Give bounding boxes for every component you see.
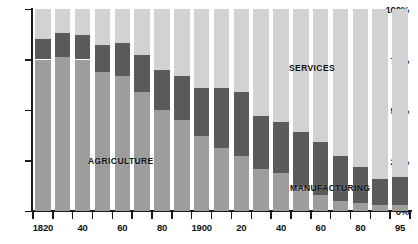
bar-segment-manufacturing — [154, 70, 169, 110]
bar-segment-services — [194, 9, 209, 88]
x-axis-tick — [191, 212, 193, 219]
x-axis-tick — [151, 212, 153, 219]
bar-segment-services — [372, 9, 387, 179]
bar-1970 — [333, 9, 348, 211]
annotation-agriculture: AGRICULTURE — [88, 156, 154, 166]
bar-1995 — [392, 9, 407, 211]
bar-1820 — [35, 9, 50, 211]
bar-1990 — [372, 9, 387, 211]
x-axis-tick — [112, 212, 114, 219]
x-axis-tick — [330, 212, 332, 219]
bar-1870 — [134, 9, 149, 211]
bar-1860 — [115, 9, 130, 211]
bar-segment-agriculture — [134, 92, 149, 211]
y-axis-tick — [25, 160, 32, 162]
bar-1980 — [353, 9, 368, 211]
bar-segment-manufacturing — [134, 55, 149, 91]
bar-segment-agriculture — [392, 205, 407, 211]
stacked-bar-chart: 0%25%50%75%100% 182040608019002040608095… — [0, 0, 418, 244]
bar-segment-manufacturing — [372, 179, 387, 205]
bar-segment-manufacturing — [214, 88, 229, 149]
bar-1900 — [194, 9, 209, 211]
x-axis-tick — [350, 212, 352, 219]
x-axis-label: 60 — [117, 222, 127, 233]
bar-segment-manufacturing — [115, 43, 130, 75]
y-axis-tick — [25, 110, 32, 112]
bar-segment-manufacturing — [174, 76, 189, 120]
bar-1850 — [95, 9, 110, 211]
bar-segment-manufacturing — [95, 45, 110, 71]
bar-segment-manufacturing — [293, 132, 308, 187]
bar-segment-services — [154, 9, 169, 70]
bar-1920 — [234, 9, 249, 211]
bar-1890 — [174, 9, 189, 211]
bar-segment-agriculture — [313, 195, 328, 211]
x-axis-label: 40 — [78, 222, 88, 233]
x-axis-tick — [211, 212, 213, 219]
bar-1950 — [293, 9, 308, 211]
bar-segment-services — [75, 9, 90, 35]
bar-segment-agriculture — [214, 148, 229, 211]
bar-1940 — [273, 9, 288, 211]
plot-area — [33, 9, 410, 211]
bar-segment-services — [333, 9, 348, 156]
x-axis-tick — [171, 212, 173, 219]
bar-1960 — [313, 9, 328, 211]
x-axis-label: 80 — [355, 222, 365, 233]
bar-segment-services — [253, 9, 268, 116]
bar-segment-services — [35, 9, 50, 39]
bar-segment-services — [174, 9, 189, 76]
bar-1830 — [55, 9, 70, 211]
annotation-services: SERVICES — [289, 63, 335, 73]
bar-segment-manufacturing — [253, 116, 268, 169]
bar-segment-manufacturing — [194, 88, 209, 136]
bar-segment-agriculture — [115, 76, 130, 211]
bar-segment-manufacturing — [333, 156, 348, 200]
bar-segment-agriculture — [35, 60, 50, 212]
bar-segment-services — [115, 9, 130, 43]
bar-segment-agriculture — [174, 120, 189, 211]
bar-segment-manufacturing — [75, 35, 90, 59]
bar-segment-agriculture — [372, 205, 387, 211]
x-axis-label: 1900 — [191, 222, 211, 233]
x-axis-label: 95 — [395, 222, 405, 233]
x-axis-tick — [389, 212, 391, 219]
annotation-manufacturing: MANUFACTURING — [290, 183, 370, 193]
bar-segment-services — [134, 9, 149, 55]
x-axis-label: 20 — [236, 222, 246, 233]
bar-segment-services — [313, 9, 328, 142]
x-axis-tick — [409, 212, 411, 219]
x-axis-label: 60 — [316, 222, 326, 233]
bar-segment-agriculture — [333, 201, 348, 211]
bar-segment-agriculture — [75, 60, 90, 212]
bar-segment-services — [234, 9, 249, 92]
x-axis-label: 1820 — [33, 222, 53, 233]
bar-segment-manufacturing — [273, 122, 288, 173]
bar-segment-services — [95, 9, 110, 45]
x-axis-tick — [270, 212, 272, 219]
x-axis-tick — [310, 212, 312, 219]
bar-segment-services — [353, 9, 368, 167]
y-axis-tick — [25, 59, 32, 61]
bar-segment-services — [214, 9, 229, 88]
x-axis-tick — [131, 212, 133, 219]
bar-1910 — [214, 9, 229, 211]
bar-segment-services — [392, 9, 407, 177]
x-axis-tick — [52, 212, 54, 219]
x-axis-tick — [92, 212, 94, 219]
bar-1880 — [154, 9, 169, 211]
x-axis-label: 80 — [157, 222, 167, 233]
bar-segment-agriculture — [154, 110, 169, 211]
x-axis-tick — [72, 212, 74, 219]
bar-segment-manufacturing — [392, 177, 407, 205]
x-axis-tick — [370, 212, 372, 219]
x-axis-tick — [290, 212, 292, 219]
x-axis-tick — [231, 212, 233, 219]
x-axis-tick — [251, 212, 253, 219]
x-axis-label: 40 — [276, 222, 286, 233]
bar-segment-manufacturing — [55, 33, 70, 57]
bar-segment-services — [273, 9, 288, 122]
y-axis-tick — [25, 9, 32, 11]
bar-1840 — [75, 9, 90, 211]
bar-segment-agriculture — [353, 203, 368, 211]
